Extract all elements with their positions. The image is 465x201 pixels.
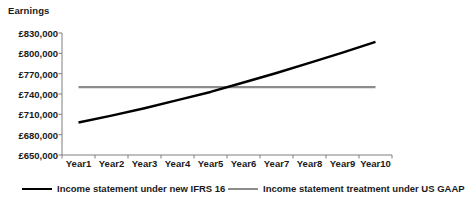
x-axis-ticks	[62, 155, 392, 159]
legend-swatch-icon	[22, 188, 52, 190]
legend-entry[interactable]: Income statement under new IFRS 16	[22, 184, 225, 194]
legend-entry[interactable]: Income statement treatment under US GAAP	[228, 184, 465, 194]
legend-label: Income statement treatment under US GAAP	[263, 184, 465, 194]
chart-legend: Income statement under new IFRS 16Income…	[0, 180, 434, 201]
y-axis-ticks	[59, 33, 63, 155]
legend-swatch-icon	[228, 188, 258, 190]
legend-label: Income statement under new IFRS 16	[57, 184, 225, 194]
series-line-ifrs16	[79, 42, 376, 123]
axis-lines	[62, 33, 392, 155]
data-series-lines	[79, 42, 376, 123]
